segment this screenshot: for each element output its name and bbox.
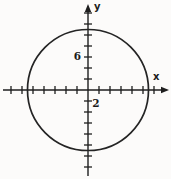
- generated-graph-elements: [3, 4, 169, 176]
- y-axis-label: y: [94, 1, 101, 12]
- y-axis-arrowhead-icon: [85, 4, 91, 12]
- x-axis-arrowhead-icon: [161, 87, 169, 93]
- graph-svg: x y 2 6: [0, 0, 171, 179]
- x-axis-label: x: [153, 71, 160, 82]
- coordinate-plane-figure: x y 2 6: [0, 0, 171, 179]
- y-tick-label-6: 6: [74, 50, 81, 62]
- x-tick-label-2: 2: [92, 97, 99, 109]
